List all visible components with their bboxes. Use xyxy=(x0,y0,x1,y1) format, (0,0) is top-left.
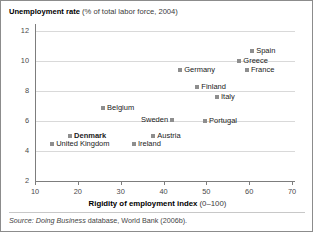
y-tick-label: 2 xyxy=(3,176,29,185)
y-tick-label: 6 xyxy=(3,116,29,125)
source-rest: database, World Bank (2006b). xyxy=(88,216,187,225)
data-point-label: Italy xyxy=(221,92,235,101)
source-divider xyxy=(9,212,305,213)
x-tick-label: 10 xyxy=(23,187,47,196)
data-point[interactable] xyxy=(245,68,249,72)
chart-title-sub: (% of total labor force, 2004) xyxy=(82,7,178,16)
data-point-label: France xyxy=(251,65,274,74)
x-tick-mark xyxy=(35,182,36,185)
x-tick-mark xyxy=(121,182,122,185)
data-point[interactable] xyxy=(50,142,54,146)
chart-title: Unemployment rate (% of total labor forc… xyxy=(9,7,178,16)
scatter-chart-figure: Unemployment rate (% of total labor forc… xyxy=(0,0,315,234)
x-tick-mark xyxy=(164,182,165,185)
data-point-label: Ireland xyxy=(138,139,161,148)
x-axis-line xyxy=(35,181,295,182)
y-tick-label: 4 xyxy=(3,146,29,155)
data-point[interactable] xyxy=(132,142,136,146)
data-point[interactable] xyxy=(203,119,207,123)
x-tick-label: 50 xyxy=(194,187,218,196)
source-database-name: Doing Business xyxy=(36,216,86,225)
y-tick-label: 12 xyxy=(3,26,29,35)
data-point[interactable] xyxy=(68,134,72,138)
x-tick-label: 40 xyxy=(152,187,176,196)
data-point[interactable] xyxy=(250,49,254,53)
source-prefix: Source: xyxy=(9,216,34,225)
gridline xyxy=(35,31,295,32)
data-point[interactable] xyxy=(215,95,219,99)
data-point-label: Sweden xyxy=(141,115,168,124)
data-point[interactable] xyxy=(195,85,199,89)
data-point[interactable] xyxy=(178,68,182,72)
y-tick-label: 8 xyxy=(3,86,29,95)
data-point[interactable] xyxy=(151,134,155,138)
data-point-label: Portugal xyxy=(209,116,237,125)
data-point[interactable] xyxy=(170,118,174,122)
data-point-label: United Kingdom xyxy=(56,139,109,148)
x-tick-label: 20 xyxy=(66,187,90,196)
x-axis-title: Rigidity of employment index (0–100) xyxy=(0,199,315,208)
x-tick-label: 30 xyxy=(109,187,133,196)
x-axis-title-sub: (0–100) xyxy=(200,199,227,208)
x-axis-title-main: Rigidity of employment index xyxy=(89,199,198,208)
data-point[interactable] xyxy=(237,59,241,63)
x-tick-label: 70 xyxy=(280,187,304,196)
x-tick-mark xyxy=(78,182,79,185)
x-tick-mark xyxy=(292,182,293,185)
data-point-label: Finland xyxy=(201,82,226,91)
data-point[interactable] xyxy=(101,106,105,110)
data-point-label: Spain xyxy=(256,46,275,55)
gridline xyxy=(35,91,295,92)
y-tick-label: 10 xyxy=(3,56,29,65)
x-tick-label: 60 xyxy=(237,187,261,196)
chart-title-main: Unemployment rate xyxy=(9,7,80,16)
x-tick-mark xyxy=(206,182,207,185)
y-axis-line xyxy=(35,24,36,182)
data-point-label: Germany xyxy=(184,65,215,74)
data-point-label: Greece xyxy=(243,56,268,65)
x-tick-mark xyxy=(249,182,250,185)
gridline xyxy=(35,151,295,152)
data-point-label: Belgium xyxy=(107,103,134,112)
source-note: Source: Doing Business database, World B… xyxy=(9,216,187,225)
